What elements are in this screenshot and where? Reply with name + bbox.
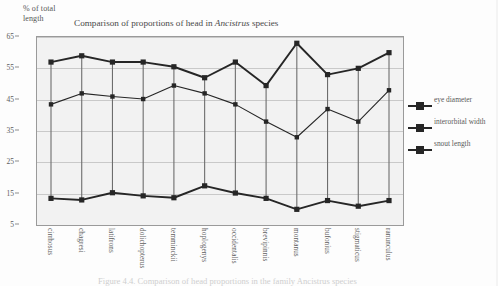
x-tick-label: hoplogenys	[200, 228, 208, 262]
data-point-marker	[233, 190, 238, 195]
data-point-marker	[264, 119, 268, 123]
chart-title: Comparison of proportions of head in Anc…	[74, 18, 278, 28]
y-tick-label: 35	[7, 126, 15, 135]
x-tick-label: temminckii	[169, 228, 177, 262]
x-tick-label: brevipinnis	[261, 228, 269, 261]
legend-label: eye diameter	[434, 95, 472, 104]
y-tick-label: 55	[7, 63, 15, 72]
x-tick-label: chagresi	[77, 228, 85, 253]
x-tick-label: cirrhosus	[46, 228, 54, 255]
y-tick-label: 65	[7, 32, 15, 41]
data-point-marker	[325, 198, 330, 203]
y-tick-mark	[15, 161, 19, 162]
data-point-marker	[110, 59, 115, 64]
plot-area	[36, 36, 404, 226]
y-axis-ticks: 6555453525155	[0, 30, 36, 232]
y-tick-label: 45	[7, 94, 15, 103]
legend-label: interorbital width	[434, 117, 486, 126]
x-tick-label: occidentalis	[230, 228, 238, 264]
y-tick-label: 5	[10, 220, 14, 229]
data-point-marker	[325, 107, 329, 111]
legend-marker-icon	[408, 127, 432, 129]
data-point-marker	[172, 83, 176, 87]
x-tick-label: dolichopterus	[138, 228, 146, 268]
data-point-marker	[141, 193, 146, 198]
x-axis-labels: cirrhosuschagresilatifronsdolichopterust…	[36, 228, 404, 280]
data-point-marker	[356, 204, 361, 209]
y-tick-mark	[15, 224, 19, 225]
x-tick-label: montanus	[292, 228, 300, 257]
data-point-marker	[202, 183, 207, 188]
data-point-marker	[386, 198, 391, 203]
data-point-marker	[386, 50, 391, 55]
x-tick-label: ranunculus	[384, 228, 392, 261]
data-point-marker	[202, 91, 206, 95]
data-point-marker	[49, 102, 53, 106]
data-point-marker	[387, 88, 391, 92]
data-point-marker	[294, 41, 299, 46]
chart-title-tail: species	[250, 18, 279, 28]
figure-caption: Figure 4.4. Comparison of head proportio…	[98, 276, 357, 286]
y-tick-label: 15	[7, 188, 15, 197]
y-tick-mark	[15, 130, 19, 131]
chart-title-main: Comparison of proportions of head in	[74, 18, 215, 28]
x-tick-label: stigmaticus	[353, 228, 361, 262]
figure-chart: % of total length Comparison of proporti…	[0, 0, 498, 286]
data-point-marker	[325, 72, 330, 77]
data-point-marker	[295, 135, 299, 139]
series-line	[51, 43, 389, 85]
data-point-marker	[233, 59, 238, 64]
data-point-marker	[356, 66, 361, 71]
legend: eye diameterinterorbital widthsnout leng…	[406, 96, 498, 162]
series-line	[51, 86, 389, 138]
legend-item[interactable]: snout length	[406, 140, 498, 162]
data-point-marker	[141, 59, 146, 64]
series-line	[51, 186, 389, 210]
legend-label: snout length	[434, 139, 470, 148]
chart-title-genus: Ancistrus	[215, 18, 250, 28]
legend-item[interactable]: eye diameter	[406, 96, 498, 118]
data-point-marker	[171, 64, 176, 69]
data-point-marker	[80, 91, 84, 95]
data-point-marker	[79, 197, 84, 202]
y-tick-mark	[15, 67, 19, 68]
data-point-marker	[110, 94, 114, 98]
y-tick-mark	[15, 192, 19, 193]
legend-marker-icon	[408, 105, 432, 107]
data-point-marker	[110, 190, 115, 195]
data-point-marker	[263, 196, 268, 201]
y-axis-title: % of total length	[23, 4, 71, 23]
data-point-marker	[356, 119, 360, 123]
y-tick-mark	[15, 36, 19, 37]
data-point-marker	[294, 207, 299, 212]
x-tick-label: latifrons	[107, 228, 115, 253]
y-tick-label: 25	[7, 157, 15, 166]
legend-item[interactable]: interorbital width	[406, 118, 498, 140]
data-point-marker	[202, 75, 207, 80]
legend-marker-icon	[408, 149, 432, 151]
x-tick-label: bufonius	[323, 228, 331, 254]
y-tick-mark	[15, 98, 19, 99]
data-point-marker	[233, 102, 237, 106]
data-point-marker	[48, 196, 53, 201]
data-point-marker	[48, 59, 53, 64]
data-point-marker	[141, 97, 145, 101]
data-point-marker	[171, 195, 176, 200]
data-point-marker	[263, 83, 268, 88]
series-layer	[37, 37, 403, 225]
data-point-marker	[79, 53, 84, 58]
